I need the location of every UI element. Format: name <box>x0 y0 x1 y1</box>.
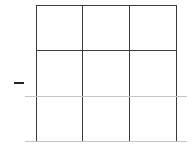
cell-0-0[interactable] <box>37 6 82 50</box>
cell-0-1[interactable] <box>83 6 129 50</box>
dash-icon <box>14 82 24 84</box>
cell-0-2[interactable] <box>130 6 176 50</box>
cell-2-0[interactable] <box>37 97 82 141</box>
grid-line-vertical-right <box>176 5 177 142</box>
cell-1-0[interactable] <box>37 51 82 96</box>
cell-1-1[interactable] <box>83 51 129 96</box>
grid-line-horizontal-bottom <box>25 141 187 142</box>
cell-2-2[interactable] <box>130 97 176 141</box>
cell-2-1[interactable] <box>83 97 129 141</box>
cell-1-2[interactable] <box>130 51 176 96</box>
